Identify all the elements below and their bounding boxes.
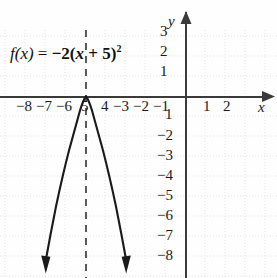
x-tick-label--7: −7 (36, 99, 52, 114)
x-tick-label--3: −3 (113, 99, 129, 114)
plot-layer (0, 0, 277, 278)
x-tick-label-2: 2 (223, 99, 231, 114)
equation-variable: x (76, 44, 85, 63)
y-tick-label--1: 1 (165, 107, 173, 122)
y-tick-label--7: −7 (157, 228, 173, 243)
equation-plus-five: + 5) (84, 44, 116, 63)
x-tick-label--6: −6 (56, 99, 72, 114)
x-tick-label--8: −8 (16, 99, 32, 114)
y-tick-label--4: −4 (157, 168, 173, 183)
y-tick-label-1: 1 (160, 64, 168, 79)
equation-exponent: 2 (116, 43, 121, 54)
equation-fx: f(x) (10, 44, 34, 63)
right-branch-arrowhead (122, 256, 131, 274)
x-tick-label-1: 1 (203, 99, 211, 114)
y-axis-arrowhead (181, 11, 192, 24)
y-axis-label: y (168, 14, 175, 29)
y-tick-label--6: −6 (157, 208, 173, 223)
x-tick-label--5: 5 (81, 99, 89, 114)
x-tick-label--2: −2 (133, 99, 149, 114)
function-equation-label: f(x) = −2(x + 5)2 (10, 44, 121, 62)
parabola-graph-figure: f(x) = −2(x + 5)2 −8 −7 −6 5 4 −3 −2 −1 … (0, 0, 277, 278)
equation-coefficient: −2( (52, 44, 76, 63)
y-tick-label-3: 3 (160, 24, 168, 39)
x-axis-label: x (258, 100, 265, 115)
left-branch-arrowhead (41, 256, 50, 274)
y-tick-label-2: 2 (160, 44, 168, 59)
y-tick-label--8: −8 (157, 248, 173, 263)
y-tick-label--3: −3 (157, 148, 173, 163)
x-tick-label--4: 4 (101, 99, 109, 114)
equation-equals: = (34, 44, 52, 63)
y-tick-label--2: −2 (157, 128, 173, 143)
y-tick-label--5: −5 (157, 188, 173, 203)
